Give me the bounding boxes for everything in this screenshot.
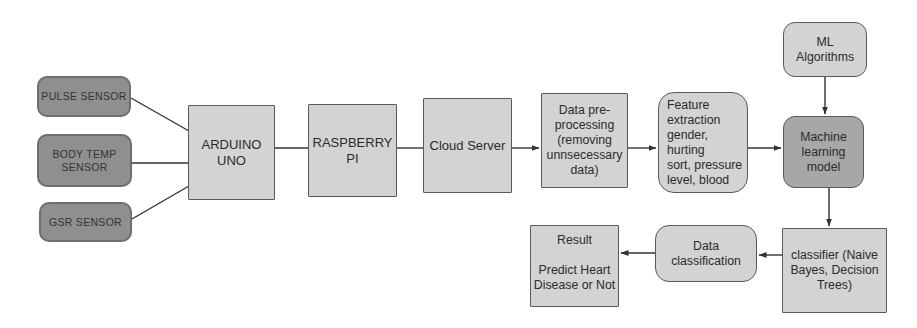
node-ml-algorithms: ML Algorithms (783, 22, 867, 77)
node-cloud-server: Cloud Server (423, 98, 512, 193)
cloud-server-label: Cloud Server (430, 138, 506, 154)
node-machine-learning-model: Machine learning model (783, 116, 864, 188)
diagram-canvas: PULSE SENSOR BODY TEMP SENSOR GSR SENSOR… (0, 0, 917, 328)
node-result: Result Predict Heart Disease or Not (530, 225, 619, 307)
edge-gsr-to-arduino (132, 186, 189, 219)
data-preprocessing-label: Data pre- processing (removing unnsecess… (547, 103, 623, 178)
data-classification-label: Data classification (671, 239, 741, 269)
node-classifier: classifier (Naive Bayes, Decision Trees) (782, 228, 887, 313)
ml-algorithms-label: ML Algorithms (796, 35, 854, 65)
gsr-sensor-label: GSR SENSOR (49, 216, 122, 229)
feature-extraction-label: Feature extraction gender, hurting sort,… (667, 98, 747, 188)
node-arduino-uno: ARDUINO UNO (188, 105, 275, 200)
classifier-label: classifier (Naive Bayes, Decision Trees) (790, 248, 878, 293)
node-raspberry-pi: RASPBERRY PI (308, 104, 397, 197)
edge-pulse-to-arduino (131, 98, 189, 131)
node-gsr-sensor: GSR SENSOR (39, 202, 132, 242)
node-body-temp-sensor: BODY TEMP SENSOR (37, 134, 132, 187)
arduino-uno-label: ARDUINO UNO (189, 137, 274, 169)
body-temp-sensor-label: BODY TEMP SENSOR (52, 148, 116, 174)
node-feature-extraction: Feature extraction gender, hurting sort,… (658, 92, 748, 193)
pulse-sensor-label: PULSE SENSOR (41, 90, 126, 103)
machine-learning-model-label: Machine learning model (800, 130, 846, 175)
raspberry-pi-label: RASPBERRY PI (309, 135, 396, 167)
result-label: Result Predict Heart Disease or Not (534, 233, 615, 293)
node-pulse-sensor: PULSE SENSOR (37, 76, 131, 117)
node-data-preprocessing: Data pre- processing (removing unnsecess… (541, 93, 628, 188)
node-data-classification: Data classification (655, 225, 757, 282)
